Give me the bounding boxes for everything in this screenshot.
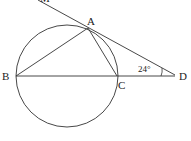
- angle-arc-d: [161, 68, 162, 76]
- angle-label-d: 24°: [138, 64, 151, 74]
- label-m: M: [40, 0, 50, 4]
- label-b: B: [2, 70, 9, 82]
- label-a: A: [87, 15, 95, 27]
- tangent-line-md: [38, 0, 175, 75]
- label-c: C: [118, 79, 125, 91]
- label-d: D: [179, 70, 187, 82]
- segment-ab: [16, 28, 88, 76]
- geometry-diagram: M A B C D 24°: [0, 0, 191, 141]
